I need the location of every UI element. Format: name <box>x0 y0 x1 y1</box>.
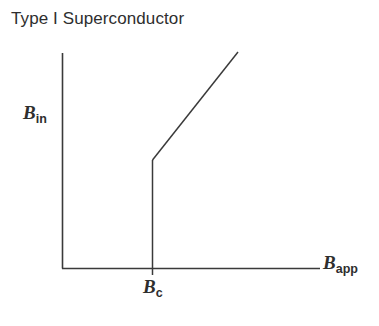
critical-field-label-symbol: B <box>143 276 156 297</box>
y-axis-label: Bin <box>23 102 47 124</box>
x-axis-label-subscript: app <box>336 262 358 276</box>
x-axis-label: Bapp <box>323 252 358 274</box>
plot-canvas <box>0 0 379 326</box>
x-axis-label-symbol: B <box>323 252 336 273</box>
superconductor-figure: Type I Superconductor Bin Bc Bapp <box>0 0 379 326</box>
critical-field-label: Bc <box>143 276 163 298</box>
critical-field-label-subscript: c <box>156 286 163 300</box>
y-axis-label-subscript: in <box>36 112 47 126</box>
curve-linear-segment <box>153 52 239 160</box>
y-axis-label-symbol: B <box>23 102 36 123</box>
